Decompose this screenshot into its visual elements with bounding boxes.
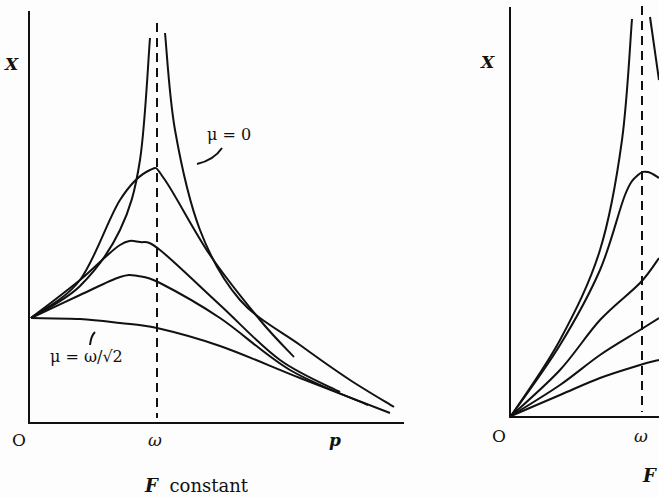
left-omega-label: ω [148, 430, 162, 450]
right-y-label: X [480, 52, 495, 72]
right-plot: X O ω F [480, 6, 659, 486]
curve-5 [511, 360, 659, 416]
curve-3 [31, 241, 340, 392]
left-caption: F constant [144, 475, 249, 496]
left-y-label: X [4, 54, 19, 74]
right-omega-label: ω [634, 426, 648, 446]
curve-2 [511, 172, 659, 416]
left-origin-label: O [12, 430, 26, 450]
right-curves [511, 17, 659, 416]
curve-1-right-branch [650, 17, 659, 80]
figure: X O ω p μ = 0 μ = ω/√2 F constant X O ω … [0, 0, 659, 498]
right-caption: F [642, 465, 657, 486]
mu-sqrt-leader-line [90, 332, 95, 345]
mu0-label: μ = 0 [207, 125, 251, 144]
right-origin-label: O [492, 426, 506, 446]
left-plot: X O ω p μ = 0 μ = ω/√2 F constant [4, 11, 404, 496]
left-p-label: p [329, 430, 341, 450]
curve-3 [511, 258, 659, 416]
mu0-leader-line [197, 148, 222, 164]
curve-1-right-branch [165, 33, 394, 407]
mu-sqrt2-label: μ = ω/√2 [50, 347, 123, 366]
